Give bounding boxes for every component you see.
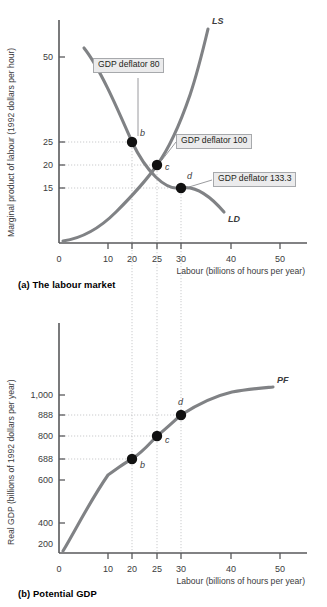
point-c xyxy=(152,431,162,441)
a-xaxis-label: Labour (billions of hours per year) xyxy=(177,266,306,276)
point-d xyxy=(176,183,186,193)
callout-gdp-deflator-133: GDP deflator 133.3 xyxy=(213,172,296,187)
panel-b-caption: (b) Potential GDP xyxy=(18,588,97,599)
a-xtick-0: 0 xyxy=(56,254,61,264)
b-ytick-400: 400 xyxy=(38,518,53,528)
a-xtick-40: 40 xyxy=(226,254,236,264)
b-xtick-20: 20 xyxy=(127,564,137,574)
curve-production-function xyxy=(63,387,273,551)
b-ytick-600: 600 xyxy=(38,475,53,485)
b-yaxis-label: Real GDP (billions of 1992 dollars per y… xyxy=(6,379,16,545)
b-xaxis-label: Labour (billions of hours per year) xyxy=(177,576,306,586)
curve-label-ld: LD xyxy=(228,214,240,224)
axes-b xyxy=(59,323,307,559)
a-ytick-15: 15 xyxy=(43,183,53,193)
point-label-d: d xyxy=(187,171,193,181)
b-xtick-50: 50 xyxy=(275,564,285,574)
a-xtick-50: 50 xyxy=(275,254,285,264)
gridlines-b xyxy=(59,301,181,553)
curve-label-pf: PF xyxy=(277,375,289,385)
a-yaxis-label: Marginal product of labour (1992 dollars… xyxy=(6,48,16,237)
point-b xyxy=(127,454,137,464)
curve-label-ls: LS xyxy=(212,16,224,26)
b-xtick-40: 40 xyxy=(226,564,236,574)
point-b xyxy=(127,137,137,147)
callout-gdp-deflator-100: GDP deflator 100 xyxy=(176,134,252,149)
a-ytick-20: 20 xyxy=(43,160,53,170)
chart-potential-gdp: 1,000 888 800 688 600 400 200 0 10 20 25… xyxy=(0,295,327,607)
a-xtick-30: 30 xyxy=(176,254,186,264)
b-ytick-200: 200 xyxy=(38,539,53,549)
a-ytick-25: 25 xyxy=(43,137,53,147)
point-d xyxy=(176,410,186,420)
b-ytick-888: 888 xyxy=(38,410,53,420)
point-label-c: c xyxy=(165,162,170,172)
b-ytick-1000: 1,000 xyxy=(30,390,53,400)
labour-market-svg: 50 25 20 15 0 10 20 25 30 40 50 Labour (… xyxy=(0,0,327,300)
a-xtick-20: 20 xyxy=(127,254,137,264)
b-xtick-30: 30 xyxy=(176,564,186,574)
point-label-c: c xyxy=(165,435,170,445)
callout-gdp-deflator-80: GDP deflator 80 xyxy=(93,58,164,73)
point-c xyxy=(152,160,162,170)
potential-gdp-svg: 1,000 888 800 688 600 400 200 0 10 20 25… xyxy=(0,295,327,607)
data-points-b xyxy=(127,410,186,464)
point-label-b: b xyxy=(140,128,145,138)
economics-figure: 50 25 20 15 0 10 20 25 30 40 50 Labour (… xyxy=(0,0,327,607)
b-xtick-0: 0 xyxy=(56,564,61,574)
b-ytick-800: 800 xyxy=(38,431,53,441)
b-xtick-10: 10 xyxy=(103,564,113,574)
b-xtick-25: 25 xyxy=(152,564,162,574)
a-ytick-50: 50 xyxy=(43,52,53,62)
a-xtick-10: 10 xyxy=(103,254,113,264)
panel-a-caption: (a) The labour market xyxy=(18,279,115,290)
chart-labour-market: 50 25 20 15 0 10 20 25 30 40 50 Labour (… xyxy=(0,0,327,300)
point-label-b: b xyxy=(140,460,145,470)
b-ytick-688: 688 xyxy=(38,454,53,464)
a-xtick-25: 25 xyxy=(152,254,162,264)
point-label-d: d xyxy=(178,397,184,407)
gridlines-a xyxy=(59,142,181,300)
